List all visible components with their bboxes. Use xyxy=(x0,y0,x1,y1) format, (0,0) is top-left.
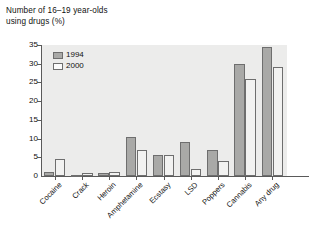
x-axis-tick-mark xyxy=(164,177,165,180)
bar-chart: Number of 16–19 year-olds using drugs (%… xyxy=(0,0,327,242)
bar xyxy=(82,173,93,176)
legend-swatch-2000 xyxy=(53,63,63,70)
legend-swatch-1994 xyxy=(53,52,63,59)
x-axis-label: LSD xyxy=(183,181,199,197)
y-axis-tick-label: 15 xyxy=(0,116,38,124)
bar xyxy=(44,172,55,176)
y-axis-tick-label: 30 xyxy=(0,60,38,68)
bar xyxy=(180,142,191,176)
bar xyxy=(207,150,218,176)
legend-label-1994: 1994 xyxy=(66,51,84,59)
x-axis-tick-mark xyxy=(55,177,56,180)
bar xyxy=(55,159,66,176)
x-axis-label: Any drug xyxy=(254,181,281,208)
x-axis-label: Heroin xyxy=(96,181,117,202)
chart-title: Number of 16–19 year-olds using drugs (%… xyxy=(6,6,216,27)
y-axis-tick-label: 20 xyxy=(0,97,38,105)
legend-label-2000: 2000 xyxy=(66,62,84,70)
x-axis-tick-mark xyxy=(136,177,137,180)
bar xyxy=(137,150,148,176)
x-axis-tick-mark xyxy=(272,177,273,180)
bar xyxy=(191,169,202,176)
bar xyxy=(262,47,273,176)
x-axis-label: Cocaine xyxy=(38,181,63,206)
bar xyxy=(234,64,245,176)
x-axis-tick-mark xyxy=(82,177,83,180)
bar xyxy=(98,173,109,176)
bar xyxy=(245,79,256,176)
x-axis-label: Cannabis xyxy=(225,181,253,209)
bar xyxy=(273,67,284,176)
y-axis-tick-label: 10 xyxy=(0,135,38,143)
x-axis-label: Poppers xyxy=(201,181,227,207)
bar xyxy=(153,155,164,176)
x-axis-label: Crack xyxy=(71,181,91,201)
x-axis-tick-mark xyxy=(218,177,219,180)
legend-item-2000: 2000 xyxy=(53,61,84,71)
x-axis-tick-mark xyxy=(109,177,110,180)
y-axis-tick-label: 5 xyxy=(0,153,38,161)
legend-item-1994: 1994 xyxy=(53,50,84,60)
x-axis-label: Ecstasy xyxy=(148,181,172,205)
y-axis-tick-label: 25 xyxy=(0,78,38,86)
x-axis-tick-mark xyxy=(191,177,192,180)
bar xyxy=(218,161,229,176)
chart-legend: 1994 2000 xyxy=(53,50,84,72)
y-axis-tick-label: 35 xyxy=(0,41,38,49)
x-axis-tick-mark xyxy=(245,177,246,180)
bar xyxy=(71,175,82,177)
bar xyxy=(164,155,175,176)
y-axis-tick-label: 0 xyxy=(0,172,38,180)
bar xyxy=(126,137,137,176)
bar xyxy=(109,172,120,176)
